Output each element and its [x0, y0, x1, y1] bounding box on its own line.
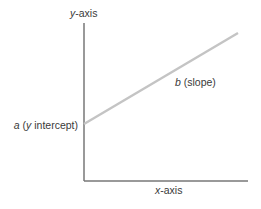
slope-label: b (slope): [175, 76, 216, 88]
intercept-label: a (y intercept): [14, 119, 78, 131]
regression-diagram: [0, 0, 261, 209]
x-axis-label: x-axis: [155, 184, 182, 196]
y-axis-label: y-axis: [70, 7, 97, 19]
